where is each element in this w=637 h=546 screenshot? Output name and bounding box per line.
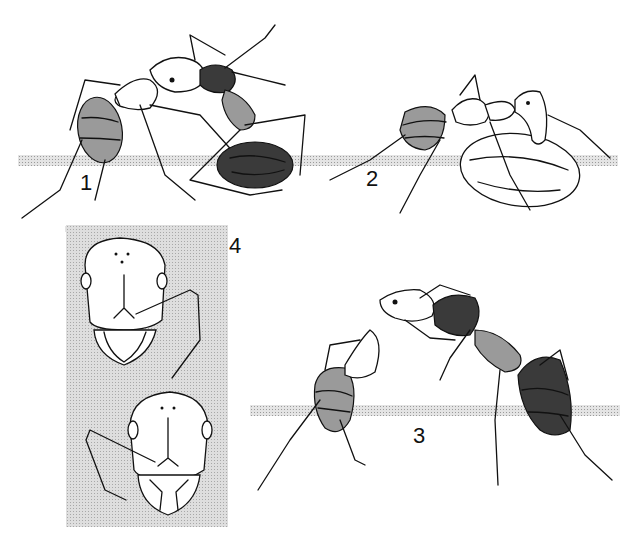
figure-3-right-ant	[433, 295, 612, 485]
figure-1-label: 1	[80, 172, 92, 194]
figure-4-lower-head	[86, 392, 212, 515]
figure-3-label: 3	[413, 425, 425, 447]
figure-4-upper-head	[81, 238, 200, 378]
ant-drawings	[0, 0, 637, 546]
figure-4-label: 4	[229, 235, 241, 257]
figure-1-carrier-ant	[22, 35, 245, 218]
figure-1-carried-ant	[190, 25, 305, 195]
figure-2-ant-with-seed	[330, 75, 610, 214]
illustration-plate: 1 2 3 4	[0, 0, 637, 546]
figure-2-label: 2	[366, 168, 378, 190]
